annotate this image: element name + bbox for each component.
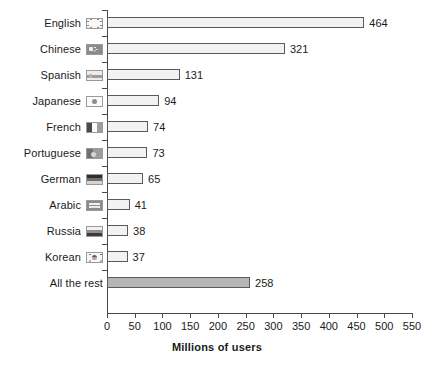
category-label: Portuguese <box>24 148 81 159</box>
bar-row-label: French <box>46 114 103 140</box>
x-axis-tick-label: 450 <box>347 320 365 332</box>
bar-value-label: 73 <box>152 147 164 158</box>
bar <box>107 43 285 54</box>
x-axis-tick <box>273 313 274 318</box>
x-axis-tick-label: 250 <box>236 320 254 332</box>
bar-value-label: 464 <box>369 17 387 28</box>
bar-value-label: 65 <box>148 173 160 184</box>
category-label: Japanese <box>32 96 81 107</box>
x-axis-tick-label: 500 <box>375 320 393 332</box>
category-label: Korean <box>45 252 81 263</box>
y-axis-tick <box>102 36 107 37</box>
x-axis-tick-label: 300 <box>264 320 282 332</box>
y-axis-tick <box>102 10 107 11</box>
bar <box>107 173 143 184</box>
flag-icon-russia <box>86 226 103 237</box>
bar-row-label: German <box>41 166 103 192</box>
x-axis-tick-label: 550 <box>403 320 421 332</box>
bar <box>107 17 364 28</box>
x-axis-tick-label: 0 <box>104 320 110 332</box>
y-axis-tick <box>102 244 107 245</box>
bar-value-label: 38 <box>133 225 145 236</box>
bar-row-label: Portuguese <box>24 140 103 166</box>
category-label: All the rest <box>50 278 103 289</box>
flag-icon-germany <box>86 174 103 185</box>
bar-row: Spanish131 <box>0 62 434 88</box>
category-label: Chinese <box>40 44 81 55</box>
bar-value-label: 94 <box>164 95 176 106</box>
bar-row: Portuguese73 <box>0 140 434 166</box>
x-axis-tick <box>107 313 108 318</box>
x-axis-tick <box>357 313 358 318</box>
y-axis-tick <box>102 192 107 193</box>
bar-row: Japanese94 <box>0 88 434 114</box>
bar-row-label: Korean <box>45 244 103 270</box>
x-axis-tick <box>384 313 385 318</box>
x-axis-tick <box>246 313 247 318</box>
category-label: Spanish <box>41 70 81 81</box>
flag-icon-korea <box>86 252 103 263</box>
x-axis-tick <box>162 313 163 318</box>
bar-row: All the rest258 <box>0 270 434 296</box>
category-label: Arabic <box>49 200 81 211</box>
x-axis-tick <box>218 313 219 318</box>
y-axis-tick <box>102 88 107 89</box>
category-label: English <box>44 18 81 29</box>
bar-row-label: Chinese <box>40 36 103 62</box>
x-axis-tick-label: 100 <box>153 320 171 332</box>
flag-icon-portugal <box>86 148 103 159</box>
bar-row-label: Russia <box>47 218 103 244</box>
flag-icon-spain <box>86 70 103 81</box>
y-axis-tick <box>102 166 107 167</box>
bar-chart: English464Chinese321Spanish131Japanese94… <box>0 0 434 369</box>
category-label: French <box>46 122 81 133</box>
flag-icon-japan <box>86 96 103 107</box>
x-axis-line <box>107 313 412 314</box>
bar-row: Korean37 <box>0 244 434 270</box>
x-axis-tick-label: 400 <box>320 320 338 332</box>
bar <box>107 121 148 132</box>
bar <box>107 95 159 106</box>
x-axis-tick-label: 350 <box>292 320 310 332</box>
bar-value-label: 258 <box>255 277 273 288</box>
x-axis-tick-label: 200 <box>209 320 227 332</box>
bar-value-label: 74 <box>153 121 165 132</box>
y-axis-tick <box>102 140 107 141</box>
x-axis-tick <box>301 313 302 318</box>
bar-row: French74 <box>0 114 434 140</box>
bar <box>107 225 128 236</box>
bar-row: Arabic41 <box>0 192 434 218</box>
bar-row-label: English <box>44 10 103 36</box>
x-axis-tick <box>135 313 136 318</box>
x-axis-tick-label: 150 <box>181 320 199 332</box>
category-label: German <box>41 174 81 185</box>
bar-row: English464 <box>0 10 434 36</box>
y-axis-tick <box>102 218 107 219</box>
bar-row: Russia38 <box>0 218 434 244</box>
y-axis-tick <box>102 114 107 115</box>
y-axis-tick <box>102 270 107 271</box>
category-label: Russia <box>47 226 81 237</box>
bar-value-label: 131 <box>185 69 203 80</box>
flag-icon-arabic <box>86 200 103 211</box>
bar-row-label: Arabic <box>49 192 103 218</box>
x-axis-tick <box>329 313 330 318</box>
flag-icon-china <box>86 44 103 55</box>
flag-icon-united-kingdom <box>86 18 103 29</box>
x-axis-title: Millions of users <box>0 341 434 353</box>
x-axis-tick <box>190 313 191 318</box>
bar-row-label: All the rest <box>50 270 103 296</box>
bar <box>107 69 180 80</box>
bar <box>107 277 250 288</box>
flag-icon-france <box>86 122 103 133</box>
x-axis-tick-label: 50 <box>129 320 141 332</box>
bar-value-label: 41 <box>135 199 147 210</box>
y-axis-tick <box>102 62 107 63</box>
x-axis-tick <box>412 313 413 318</box>
bar <box>107 251 128 262</box>
bar-row-label: Japanese <box>32 88 103 114</box>
bar-value-label: 37 <box>133 251 145 262</box>
bar-row: German65 <box>0 166 434 192</box>
bar <box>107 199 130 210</box>
bar <box>107 147 147 158</box>
